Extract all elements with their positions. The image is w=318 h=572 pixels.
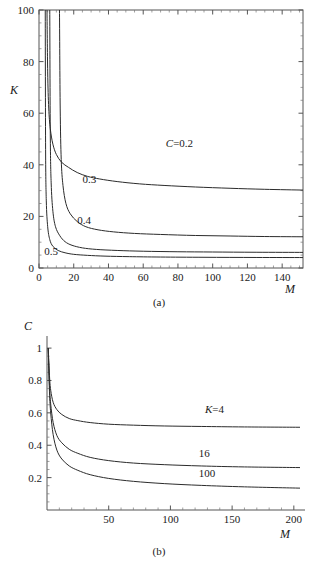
x-axis-tick-label: 100 xyxy=(162,513,179,525)
x-axis-tick-label: 50 xyxy=(103,513,115,525)
x-axis-tick-label: 200 xyxy=(286,513,303,525)
x-axis-title: M xyxy=(279,527,291,541)
y-axis-tick-label: 0.6 xyxy=(28,407,42,419)
curve-label-value: =4 xyxy=(212,403,224,415)
curve-0.3 xyxy=(59,10,303,237)
figure-panel-b: 501001502000.20.40.60.81CMK=416100 xyxy=(0,312,318,572)
x-axis-tick-label: 100 xyxy=(204,271,221,283)
chart-b-plot-area: 501001502000.20.40.60.81CMK=416100 xyxy=(0,312,318,552)
x-axis-tick-label: 40 xyxy=(103,271,115,283)
y-axis-tick-label: 80 xyxy=(23,56,35,68)
x-axis-tick-label: 60 xyxy=(138,271,150,283)
curves-group xyxy=(48,348,300,488)
x-axis-tick-label: 80 xyxy=(172,271,184,283)
y-axis-tick-label: 0.8 xyxy=(28,374,42,386)
y-axis-tick-label: 1 xyxy=(37,342,43,354)
y-axis-tick-label: 60 xyxy=(23,107,35,119)
curve-label-0.4: 0.4 xyxy=(77,214,91,226)
x-axis-title: M xyxy=(284,282,296,296)
y-axis-title: K xyxy=(9,83,19,97)
curve-label-value: =0.2 xyxy=(173,137,193,149)
y-axis-tick-label: 0 xyxy=(29,262,35,274)
y-axis-tick-label: 40 xyxy=(23,159,35,171)
curve-label-C=0.2: C=0.2 xyxy=(166,137,193,149)
x-axis-tick-label: 0 xyxy=(36,271,42,283)
x-axis-tick-label: 150 xyxy=(224,513,241,525)
curve-label-0.3: 0.3 xyxy=(82,173,96,185)
caption-b: (b) xyxy=(0,545,318,557)
curve-C=0.2 xyxy=(47,10,303,190)
curve-label-100: 100 xyxy=(199,467,216,479)
y-axis-tick-label: 20 xyxy=(23,210,35,222)
curve-label-0.5: 0.5 xyxy=(44,245,58,257)
curve-K-4 xyxy=(48,348,300,427)
y-axis-title: C xyxy=(24,319,33,333)
caption-a: (a) xyxy=(0,296,318,308)
chart-a-plot-area: 020406080100120140020406080100KMC=0.20.3… xyxy=(0,0,318,300)
y-axis-tick-label: 100 xyxy=(18,4,35,16)
curve-label-K=4: K=4 xyxy=(204,403,225,415)
y-axis-tick-label: 0.4 xyxy=(28,439,42,451)
curve-label-16: 16 xyxy=(199,447,211,459)
x-axis-tick-label: 120 xyxy=(239,271,256,283)
curve-K-16 xyxy=(48,348,300,467)
y-axis-tick-label: 0.2 xyxy=(28,472,42,484)
figure-panel-a: 020406080100120140020406080100KMC=0.20.3… xyxy=(0,0,318,320)
x-axis-tick-label: 20 xyxy=(68,271,80,283)
